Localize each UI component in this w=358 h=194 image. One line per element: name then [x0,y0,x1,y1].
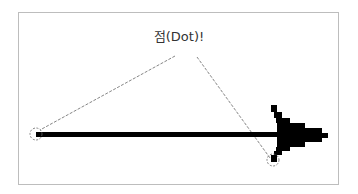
arrow-diagram [0,0,358,194]
arrow-icon [36,105,328,162]
leader-lines [40,56,270,158]
